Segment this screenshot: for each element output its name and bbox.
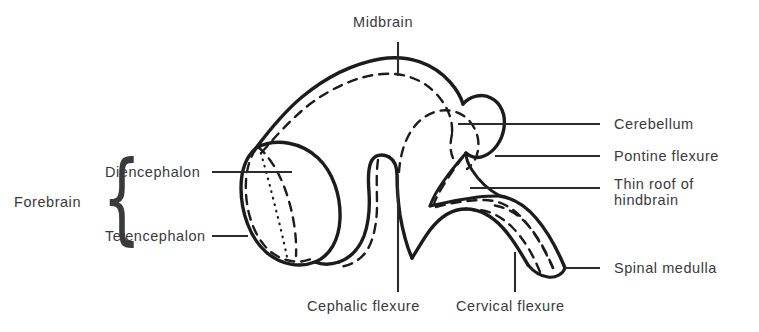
cephalic-flexure-dashed [339, 160, 378, 267]
cephalic-flexure-notch [339, 155, 389, 262]
thin-roof-interior-dashed [434, 157, 463, 204]
figure-canvas: Midbrain Forebrain { Diencephalon Telenc… [0, 0, 759, 332]
spinal-medulla-inner-outline [466, 209, 528, 265]
cervical-flexure-outline [412, 209, 466, 258]
label-cervical-flexure: Cervical flexure [456, 298, 565, 314]
cerebellum-interior-dashed [451, 134, 453, 158]
label-cephalic-flexure: Cephalic flexure [307, 298, 420, 314]
label-spinal-medulla: Spinal medulla [614, 260, 717, 276]
spinal-medulla-cut-end [528, 265, 565, 277]
label-midbrain: Midbrain [353, 14, 413, 30]
brain-outline-group [241, 58, 565, 277]
label-telencephalon: Telencephalon [105, 228, 206, 244]
cerebellum-outline [463, 96, 504, 158]
label-diencephalon: Diencephalon [105, 164, 200, 180]
label-cerebellum: Cerebellum [614, 116, 694, 132]
ventral-pons-outline [389, 157, 412, 258]
midbrain-dome-outline [256, 58, 463, 148]
label-thin-roof-line1: Thin roof of [614, 176, 694, 192]
diencephalon-ventral-outline [315, 262, 339, 264]
label-thin-roof-hindbrain: Thin roof of hindbrain [614, 176, 754, 208]
label-pontine-flexure: Pontine flexure [614, 148, 719, 164]
spinal-lumen-outer-dashed [491, 205, 553, 268]
telencephalon-dashed-left [246, 149, 311, 262]
thin-roof-hindbrain-outline [466, 153, 500, 196]
label-thin-roof-line2: hindbrain [614, 192, 679, 208]
telencephalon-dashed-medial [258, 147, 296, 256]
spinal-lumen-inner-dashed [473, 210, 540, 272]
midbrain-ventricle-dashed [262, 74, 452, 152]
label-forebrain: Forebrain [14, 194, 81, 210]
